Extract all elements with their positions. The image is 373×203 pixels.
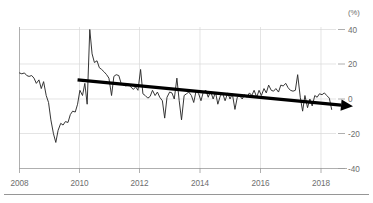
ytick-label-neg40: -40 xyxy=(348,165,360,174)
xtick-label-2012: 2012 xyxy=(130,179,149,188)
y-tick-marks xyxy=(338,30,345,169)
xtick-label-2014: 2014 xyxy=(191,179,210,188)
xtick-label-2016: 2016 xyxy=(251,179,270,188)
xtick-label-2010: 2010 xyxy=(70,179,89,188)
y-axis-unit-label: (%) xyxy=(348,8,360,17)
plot-area-background xyxy=(19,27,336,168)
xtick-label-2018: 2018 xyxy=(312,179,331,188)
ytick-label-40: 40 xyxy=(348,26,358,35)
ytick-label-neg20: -20 xyxy=(348,130,360,139)
xtick-label-2008: 2008 xyxy=(10,179,29,188)
ytick-label-0: 0 xyxy=(348,95,353,104)
ytick-label-20: 20 xyxy=(348,60,358,69)
line-chart: (%) 40 20 0 -20 -40 2008 2010 2012 2014 … xyxy=(0,0,373,203)
chart-container: (%) 40 20 0 -20 -40 2008 2010 2012 2014 … xyxy=(0,0,373,203)
